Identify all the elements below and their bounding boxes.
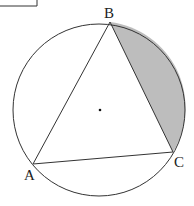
vertex-label-a: A	[24, 167, 35, 183]
geometry-diagram: B A C	[0, 0, 194, 206]
vertex-label-b: B	[104, 5, 114, 21]
center-point	[99, 109, 102, 112]
corner-box	[0, 0, 37, 6]
vertex-label-c: C	[174, 154, 184, 170]
shaded-segment-bc	[110, 22, 185, 152]
